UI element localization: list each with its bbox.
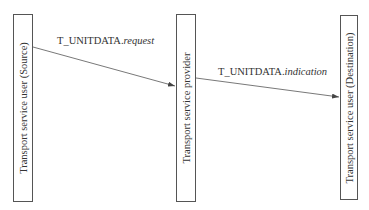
indication-message-label: T_UNITDATA.indication — [218, 66, 327, 77]
request-type: request — [124, 35, 155, 46]
request-primitive: T_UNITDATA. — [57, 35, 124, 46]
request-message-label: T_UNITDATA.request — [57, 35, 154, 46]
message-arrows — [0, 0, 369, 210]
indication-arrow — [196, 78, 339, 97]
indication-primitive: T_UNITDATA. — [218, 66, 285, 77]
indication-type: indication — [285, 66, 328, 77]
request-arrow — [33, 47, 175, 86]
